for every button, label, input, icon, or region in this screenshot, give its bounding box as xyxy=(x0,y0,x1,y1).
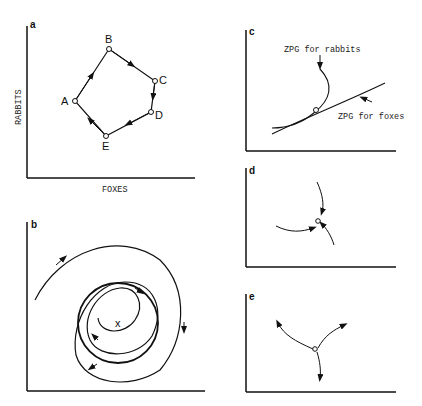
point-e: E xyxy=(102,140,109,152)
rabbit-zpg-label: ZPG for rabbits xyxy=(284,45,361,55)
panel-label: e xyxy=(249,291,255,302)
panel-b: b x xyxy=(27,219,205,391)
panel-label: a xyxy=(30,19,36,30)
center-mark: x xyxy=(115,317,121,329)
figure: a RABBITS FOXES A B C D E b x xyxy=(0,0,422,406)
point-b: B xyxy=(105,33,112,45)
panel-a: a RABBITS FOXES A B C D E xyxy=(14,19,195,195)
point-a: A xyxy=(61,95,69,107)
panel-d: d xyxy=(246,165,396,267)
panel-label: d xyxy=(249,165,255,176)
panel-e: e xyxy=(246,291,396,392)
point-d: D xyxy=(155,109,163,121)
y-axis-label: RABBITS xyxy=(14,89,24,125)
x-axis-label: FOXES xyxy=(102,185,128,195)
panel-label: b xyxy=(31,219,37,230)
fox-zpg-label: ZPG for foxes xyxy=(338,112,404,122)
panel-label: c xyxy=(249,26,255,37)
point-c: C xyxy=(159,74,167,86)
panel-c: c ZPG for rabbits ZPG for foxes xyxy=(246,26,404,151)
